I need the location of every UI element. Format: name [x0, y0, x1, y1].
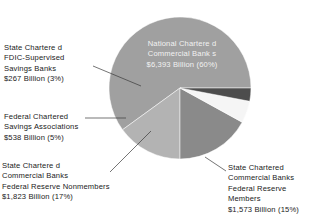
callout-nonmembers-line-1: State Chartere d: [2, 161, 110, 171]
callout-fdic-line-4: $267 Billion (3%): [4, 74, 65, 84]
leader-line-members: [205, 157, 226, 171]
callout-fdic-line-1: State Chartere d: [4, 43, 65, 53]
callout-state-chartered-fed-reserve-nonmembers: State Chartere d Commercial Banks Federa…: [2, 161, 110, 203]
callout-nonmembers-line-2: Commercial Banks: [2, 171, 110, 181]
inner-label-line-1: National Chartere d: [126, 39, 238, 49]
callout-fcsa-line-3: $538 Billion (5%): [4, 133, 78, 143]
callout-fdic-line-2: FDIC-Supervised: [4, 53, 65, 63]
callout-state-chartered-fed-reserve-members: State Chartered Commercial Banks Federal…: [228, 163, 299, 215]
callout-fcsa-line-1: Federal Chartered: [4, 112, 78, 122]
callout-members-line-1: State Chartered: [228, 163, 299, 173]
pie-chart: National Chartere d Commercial Bank s $6…: [0, 0, 310, 220]
callout-members-line-3: Federal Reserve: [228, 184, 299, 194]
callout-fdic-supervised-savings-banks: State Chartere d FDIC-Supervised Savings…: [4, 43, 65, 85]
callout-members-line-5: $1,573 Billion (15%): [228, 205, 299, 215]
inner-label-line-2: Commercial Bank s: [126, 49, 238, 59]
slice-label-national-chartered-commercial-banks: National Chartere d Commercial Bank s $6…: [126, 39, 238, 70]
callout-members-line-4: Members: [228, 194, 299, 204]
callout-fcsa-line-2: Savings Associations: [4, 122, 78, 132]
callout-federal-chartered-savings-associations: Federal Chartered Savings Associations $…: [4, 112, 78, 143]
callout-members-line-2: Commercial Banks: [228, 173, 299, 183]
callout-nonmembers-line-3: Federal Reserve Nonmembers: [2, 182, 110, 192]
callout-nonmembers-line-4: $1,823 Billion (17%): [2, 192, 110, 202]
inner-label-line-3: $6,393 Billion (60%): [126, 60, 238, 70]
callout-fdic-line-3: Savings Banks: [4, 64, 65, 74]
